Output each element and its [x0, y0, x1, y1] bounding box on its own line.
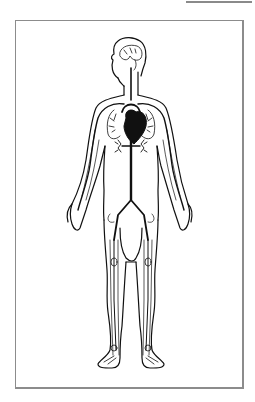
- leg-veins-icon: [110, 240, 152, 355]
- circulatory-system-illustration: [0, 0, 255, 402]
- inguinal-vessels-icon: [108, 214, 154, 222]
- heart-icon: [124, 110, 146, 144]
- leg-arteries-icon: [114, 240, 148, 350]
- head-outline-icon: [111, 38, 145, 86]
- ankle-vessels-icon: [104, 345, 158, 364]
- subclavian-vessel-left-icon: [78, 104, 124, 210]
- brain-icon: [120, 45, 142, 70]
- iliac-arteries-icon: [114, 200, 148, 240]
